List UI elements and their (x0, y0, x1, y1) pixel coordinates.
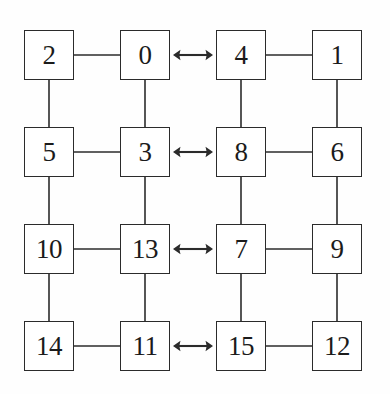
arrow-row-1 (173, 45, 213, 65)
double-headed-arrow-icon (173, 336, 213, 356)
double-headed-arrow-icon (173, 142, 213, 162)
node-label-11: 11 (133, 333, 158, 360)
double-headed-arrow-icon (173, 45, 213, 65)
node-box-12[interactable]: 12 (312, 321, 362, 371)
node-box-8[interactable]: 8 (216, 127, 266, 177)
node-box-5[interactable]: 5 (24, 127, 74, 177)
node-label-2: 2 (43, 42, 56, 69)
node-label-5: 5 (43, 139, 56, 166)
node-label-6: 6 (331, 139, 344, 166)
node-box-2[interactable]: 2 (24, 30, 74, 80)
node-label-4: 4 (235, 42, 248, 69)
double-headed-arrow-icon (173, 239, 213, 259)
node-box-1[interactable]: 1 (312, 30, 362, 80)
node-box-11[interactable]: 11 (120, 321, 170, 371)
node-label-7: 7 (235, 236, 248, 263)
node-label-1: 1 (331, 42, 344, 69)
node-box-15[interactable]: 15 (216, 321, 266, 371)
node-box-3[interactable]: 3 (120, 127, 170, 177)
node-label-9: 9 (331, 236, 344, 263)
node-box-0[interactable]: 0 (120, 30, 170, 80)
node-box-10[interactable]: 10 (24, 224, 74, 274)
node-box-9[interactable]: 9 (312, 224, 362, 274)
arrow-row-4 (173, 336, 213, 356)
node-label-10: 10 (36, 236, 62, 263)
node-box-7[interactable]: 7 (216, 224, 266, 274)
node-label-14: 14 (36, 333, 62, 360)
edge-lines-group (49, 55, 337, 346)
node-box-14[interactable]: 14 (24, 321, 74, 371)
node-label-13: 13 (132, 236, 158, 263)
node-label-8: 8 (235, 139, 248, 166)
arrow-row-2 (173, 142, 213, 162)
node-box-13[interactable]: 13 (120, 224, 170, 274)
arrow-row-3 (173, 239, 213, 259)
node-box-4[interactable]: 4 (216, 30, 266, 80)
node-label-0: 0 (139, 42, 152, 69)
node-label-3: 3 (139, 139, 152, 166)
node-label-15: 15 (228, 333, 254, 360)
node-box-6[interactable]: 6 (312, 127, 362, 177)
node-label-12: 12 (324, 333, 350, 360)
diagram-canvas: 2041538610137914111512 (0, 0, 390, 394)
